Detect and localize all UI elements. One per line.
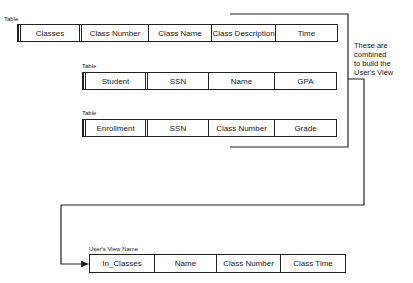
- annotation-note: These are combined to build the User's V…: [354, 41, 393, 77]
- annotation-line: combined: [354, 50, 393, 59]
- table-users-view: In_Classes Name Class Number Class Time: [89, 254, 346, 273]
- connector-lines: [0, 0, 413, 283]
- table-label-enrollment: Table: [82, 110, 96, 116]
- field-cell: Class Description: [212, 25, 276, 41]
- field-cell: Class Name: [149, 25, 212, 41]
- field-cell: SSN: [148, 73, 209, 89]
- table-name-cell: Enrollment: [83, 120, 148, 136]
- table-student: Student SSN Name GPA: [82, 72, 337, 90]
- field-cell: SSN: [148, 120, 209, 136]
- field-cell: GPA: [275, 73, 336, 89]
- view-name-cell: In_Classes: [90, 255, 155, 272]
- field-cell: Class Time: [281, 255, 345, 272]
- field-cell: Class Number: [217, 255, 281, 272]
- field-cell: Time: [276, 25, 337, 41]
- arrow-head-icon: [81, 261, 89, 268]
- field-cell: Name: [209, 73, 275, 89]
- field-cell: Class Number: [82, 25, 149, 41]
- annotation-line: These are: [354, 41, 393, 50]
- annotation-line: User's View: [354, 68, 393, 77]
- table-enrollment: Enrollment SSN Class Number Grade: [82, 119, 337, 137]
- field-cell: Class Number: [209, 120, 275, 136]
- table-name-cell: Student: [83, 73, 148, 89]
- table-classes: Classes Class Number Class Name Class De…: [17, 24, 338, 42]
- table-name-cell: Classes: [18, 25, 82, 41]
- field-cell: Grade: [275, 120, 336, 136]
- annotation-line: to build the: [354, 59, 393, 68]
- view-label: User's View Name: [89, 246, 138, 252]
- table-label-classes: Table: [4, 16, 18, 22]
- field-cell: Name: [155, 255, 217, 272]
- table-label-student: Table: [82, 63, 96, 69]
